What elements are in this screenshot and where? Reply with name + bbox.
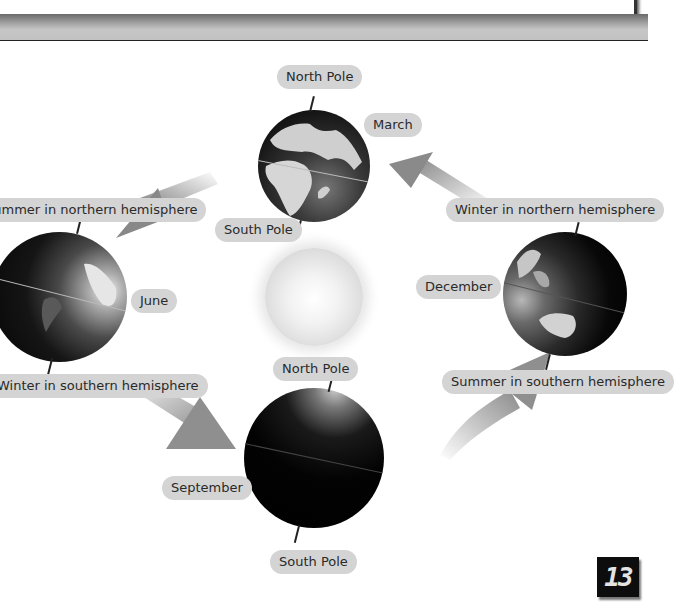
label-december: December (416, 275, 501, 299)
label-september-south-pole: South Pole (270, 550, 357, 574)
equator-line (244, 443, 384, 474)
label-september-north-pole: North Pole (273, 357, 358, 381)
label-september: September (162, 476, 252, 500)
label-june-north: Summer in northern hemisphere (0, 198, 206, 222)
label-march: March (364, 113, 422, 137)
label-december-north: Winter in northern hemisphere (446, 198, 664, 222)
continents-africa-asia (258, 110, 370, 222)
earth-december (503, 232, 627, 356)
sun (265, 248, 363, 346)
axis-south-september (294, 525, 300, 543)
label-march-south-pole: South Pole (215, 218, 302, 242)
page-header-frame (0, 0, 648, 42)
header-band (0, 14, 648, 41)
label-december-south: Summer in southern hemisphere (442, 370, 674, 394)
label-june-south: Winter in southern hemisphere (0, 374, 208, 398)
continents-americas (0, 232, 127, 362)
label-march-north-pole: North Pole (277, 65, 362, 89)
page-number: 13 (597, 557, 639, 597)
label-june: June (131, 289, 177, 313)
earth-march (258, 110, 370, 222)
arrow-september-to-december-icon (440, 350, 550, 460)
earth-september (244, 388, 384, 528)
earth-june (0, 232, 127, 362)
continents-asia-australia (503, 232, 627, 356)
